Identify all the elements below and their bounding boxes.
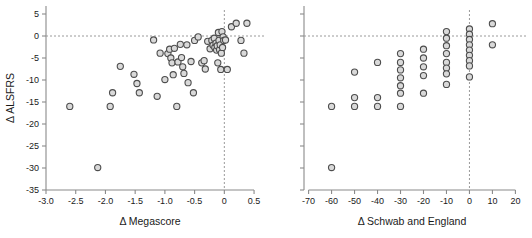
data-point [328,103,334,109]
data-point [162,76,168,82]
data-point [489,42,495,48]
x-tick-label: -60 [325,196,338,206]
panel-schwab-england: -70-60-50-40-30-20-1001020Δ Schwab and E… [266,0,532,238]
x-tick-label: -0.5 [187,196,203,206]
data-point [150,37,156,43]
y-axis-label-left: Δ ALSFRS [4,73,16,123]
data-point [177,41,183,47]
x-tick-label: -2.0 [98,196,114,206]
data-point [397,59,403,65]
x-tick-label: 20 [510,196,520,206]
y-tick-label: -35 [26,185,39,195]
x-tick-label: 10 [487,196,497,206]
y-tick-label: 0 [34,31,39,41]
data-point [466,63,472,69]
y-tick-label: -5 [31,53,39,63]
x-tick-label: -50 [348,196,361,206]
data-point [238,37,244,43]
data-point [171,45,177,51]
x-tick-label: 0 [467,196,472,206]
data-point [397,90,403,96]
data-point [224,66,230,72]
data-point [351,95,357,101]
data-point [328,164,334,170]
data-point [351,69,357,75]
data-point [443,51,449,57]
x-tick-label: -10 [440,196,453,206]
data-point [420,73,426,79]
plot-area-left: 50-5-10-15-20-25-30-35-3.0-2.5-2.0-1.5-1… [0,0,266,238]
data-point [397,67,403,73]
data-point [184,42,190,48]
data-point [188,58,194,64]
data-point [397,103,403,109]
panel-megascore: 50-5-10-15-20-25-30-35-3.0-2.5-2.0-1.5-1… [0,0,266,238]
data-point [109,90,115,96]
y-tick-label: -10 [26,75,39,85]
data-point [201,58,207,64]
data-point [169,60,175,66]
x-tick-label: 0 [222,196,227,206]
data-point [219,44,225,50]
x-axis-label-right: Δ Schwab and England [358,215,467,227]
data-point [466,74,472,80]
data-point [107,103,113,109]
data-point [420,90,426,96]
data-point [397,75,403,81]
data-point [443,81,449,87]
data-point [420,46,426,52]
x-tick-label: -30 [394,196,407,206]
data-point [222,37,228,43]
x-tick-label: -20 [417,196,430,206]
data-point [233,20,239,26]
data-point [420,55,426,61]
x-tick-label: -1.0 [157,196,173,206]
data-point [131,71,137,77]
data-point [241,50,247,56]
data-point [117,63,123,69]
data-point [95,164,101,170]
data-point [218,66,224,72]
data-point [215,60,221,66]
data-point [154,93,160,99]
data-point [195,34,201,40]
data-point [218,50,224,56]
x-tick-label: -3.0 [38,196,54,206]
data-point [67,103,73,109]
data-point [174,103,180,109]
data-point [374,95,380,101]
data-point [157,50,163,56]
x-tick-label: 0.5 [248,196,261,206]
y-tick-label: -20 [26,119,39,129]
data-point [489,21,495,27]
data-point [178,54,184,60]
data-point [134,80,140,86]
y-tick-label: 5 [34,9,39,19]
y-tick-label: -25 [26,141,39,151]
data-point [136,90,142,96]
data-point [443,71,449,77]
data-point [244,20,250,26]
data-point [374,103,380,109]
data-point [181,70,187,76]
data-point [443,43,449,49]
data-point [443,35,449,41]
x-tick-label: -2.5 [68,196,84,206]
x-tick-label: -70 [302,196,315,206]
x-tick-label: -1.5 [127,196,143,206]
x-axis-label-left: Δ Megascore [119,215,180,227]
data-point [190,90,196,96]
scatter-figure: 50-5-10-15-20-25-30-35-3.0-2.5-2.0-1.5-1… [0,0,532,238]
data-point [180,64,186,70]
x-tick-label: -40 [371,196,384,206]
data-point [443,29,449,35]
data-point [351,103,357,109]
data-point [202,66,208,72]
y-tick-label: -30 [26,163,39,173]
data-point [397,51,403,57]
plot-area-right: -70-60-50-40-30-20-1001020Δ Schwab and E… [266,0,532,238]
data-point [420,64,426,70]
data-point [374,59,380,65]
y-tick-label: -15 [26,97,39,107]
data-point [185,80,191,86]
